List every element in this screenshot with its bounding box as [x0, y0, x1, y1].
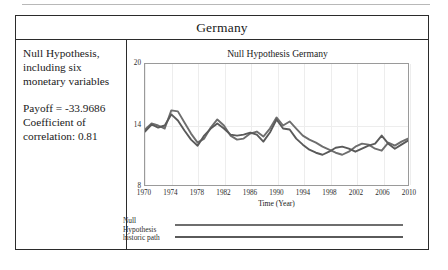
- figure-header: Germany: [16, 16, 428, 40]
- legend-label: historic path: [123, 233, 171, 242]
- x-axis-label: Time (Year): [144, 199, 409, 208]
- legend-item: historic path: [123, 231, 423, 243]
- correlation-value: Coefficient of correlation: 0.81: [23, 115, 120, 143]
- description-panel: Null Hypothesis, including six monetary …: [16, 39, 127, 249]
- y-tick-label: 14: [117, 121, 141, 129]
- x-tick-label: 1990: [262, 189, 292, 197]
- chart-legend: Null Hypothesishistoric path: [123, 219, 423, 243]
- x-tick-label: 2006: [368, 189, 398, 197]
- series-lines: [145, 64, 408, 185]
- legend-swatch: [175, 224, 403, 227]
- x-tick-label: 1982: [209, 189, 239, 197]
- figure-body: Null Hypothesis, including six monetary …: [16, 39, 428, 249]
- legend-swatch: [175, 236, 403, 239]
- plot-area: [144, 63, 409, 186]
- y-tick-label: 20: [117, 59, 141, 67]
- country-title: Germany: [196, 20, 248, 36]
- x-tick-label: 1970: [129, 189, 159, 197]
- gridline-vertical: [410, 64, 411, 185]
- plot-wrapper: 20148 1970197419781982198619901994199820…: [127, 39, 428, 249]
- x-tick-label: 1974: [156, 189, 186, 197]
- legend-item: Null Hypothesis: [123, 219, 423, 231]
- x-tick-label: 1994: [288, 189, 318, 197]
- series-line: [145, 110, 408, 154]
- chart-panel: Null Hypothesis Germany 20148 1970197419…: [127, 39, 428, 249]
- x-tick-label: 1998: [315, 189, 345, 197]
- x-tick-label: 2002: [341, 189, 371, 197]
- x-tick-label: 2010: [394, 189, 424, 197]
- page-top-rule: [22, 4, 430, 5]
- legend-label: Null Hypothesis: [123, 216, 171, 234]
- figure-container: Germany Null Hypothesis, including six m…: [15, 15, 429, 250]
- x-tick-label: 1986: [235, 189, 265, 197]
- x-tick-label: 1978: [182, 189, 212, 197]
- payoff-value: Payoff = -33.9686: [23, 101, 120, 115]
- series-line: [145, 114, 408, 154]
- hypothesis-description: Null Hypothesis, including six monetary …: [23, 46, 120, 89]
